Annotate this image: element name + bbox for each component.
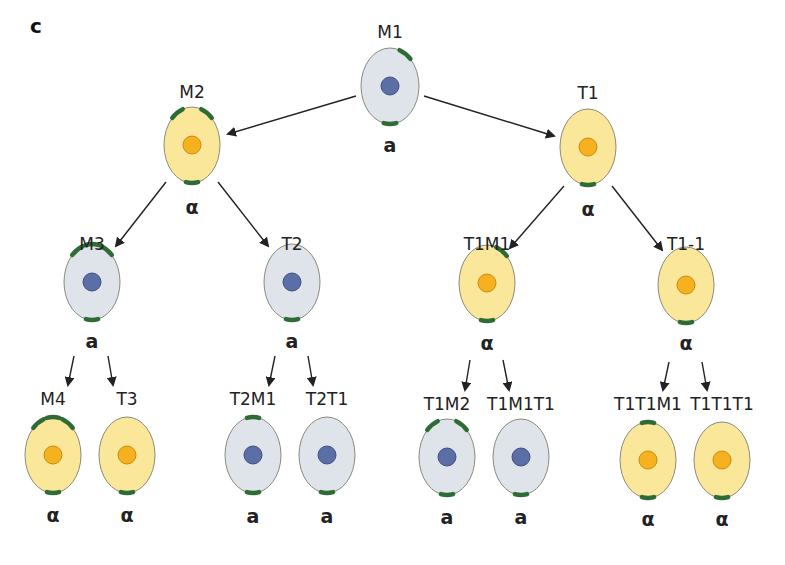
mating-type-label: a — [441, 506, 454, 528]
bud-scar-mark-bottom — [642, 497, 654, 498]
bud-scar-mark-bottom — [321, 492, 333, 493]
nucleus-icon — [579, 138, 597, 156]
cell-t1m1t1: T1M1T1a — [486, 394, 555, 528]
arrow-t2-to-t2m1 — [269, 356, 275, 385]
nucleus-icon — [381, 77, 399, 95]
cell-label: T1T1M1 — [613, 394, 682, 414]
nucleus-icon — [44, 446, 62, 464]
bud-scar-mark-bottom — [481, 320, 493, 321]
bud-scar-mark-bottom — [441, 494, 453, 495]
arrow-t1-1-to-t1t1m1 — [663, 362, 669, 390]
mating-type-label: α — [46, 504, 59, 526]
mating-type-label: α — [715, 508, 728, 530]
cell-t1m1: T1M1α — [459, 234, 515, 354]
mating-type-label: α — [185, 196, 198, 218]
cell-label: T1-1 — [666, 234, 705, 254]
arrow-t1m1-to-t1m2 — [465, 360, 470, 390]
panel-label: c — [30, 14, 42, 38]
mating-type-label: a — [286, 330, 299, 352]
arrow-t2-to-t2t1 — [308, 356, 313, 385]
cell-m1: M1a — [361, 22, 419, 156]
bud-scar-mark-bottom — [716, 497, 728, 498]
bud-scar-mark-bottom — [247, 492, 259, 493]
nucleus-icon — [244, 446, 262, 464]
arrow-m3-to-m4 — [68, 356, 74, 385]
bud-scar-mark-top — [47, 417, 59, 418]
cell-m4: M4α — [25, 389, 81, 526]
bud-scar-mark-bottom — [47, 492, 59, 493]
bud-scar-mark-bottom — [680, 322, 692, 323]
cell-t1m2: T1M2a — [419, 394, 475, 528]
arrow-m2-to-t2 — [218, 182, 268, 246]
mating-type-label: α — [641, 508, 654, 530]
cell-label: T1T1T1 — [689, 394, 754, 414]
mating-type-label: α — [480, 332, 493, 354]
arrow-t1m1-to-t1m1t1 — [503, 360, 509, 390]
mating-type-label: α — [120, 504, 133, 526]
cell-t2m1: T2M1a — [225, 389, 281, 527]
nucleus-icon — [318, 446, 336, 464]
cell-label: M2 — [179, 82, 204, 102]
bud-scar-mark-bottom — [186, 182, 198, 183]
bud-scar-mark-bottom — [86, 319, 98, 320]
cell-label: T2T1 — [305, 389, 348, 409]
mating-type-label: a — [321, 505, 334, 527]
mating-type-label: α — [679, 332, 692, 354]
arrow-t1-to-t1-1 — [612, 186, 662, 250]
cell-label: T1 — [576, 83, 598, 103]
arrow-m3-to-t3 — [108, 356, 113, 385]
bud-scar-mark-top — [247, 417, 259, 418]
nucleus-icon — [83, 273, 101, 291]
nucleus-icon — [512, 448, 530, 466]
bud-scar-mark-bottom — [384, 123, 397, 124]
cell-m2: M2α — [164, 82, 220, 218]
mating-type-label: a — [247, 505, 260, 527]
bud-scar-mark-bottom — [121, 492, 133, 493]
arrow-m1-to-t1 — [424, 96, 554, 136]
cell-label: T3 — [115, 389, 137, 409]
bud-scar-mark-bottom — [515, 494, 527, 495]
arrow-m1-to-m2 — [228, 96, 356, 134]
cell-t2t1: T2T1a — [299, 389, 355, 527]
mating-type-label: a — [384, 134, 397, 156]
cell-t1t1m1: T1T1M1α — [613, 394, 682, 530]
bud-scar-mark-bottom — [582, 184, 594, 185]
cells: M1aM2αT1αM3aT2aT1M1αT1-1αM4αT3αT2M1aT2T1… — [25, 22, 754, 530]
cell-label: T1M2 — [423, 394, 471, 414]
cell-label: M3 — [79, 234, 104, 254]
bud-scar-mark-bottom — [286, 319, 298, 320]
nucleus-icon — [283, 273, 301, 291]
arrow-t1-to-t1m1 — [510, 186, 564, 248]
nucleus-icon — [677, 276, 695, 294]
cell-t3: T3α — [99, 389, 155, 526]
cell-label: T1M1T1 — [486, 394, 555, 414]
mating-type-label: α — [581, 198, 594, 220]
nucleus-icon — [478, 274, 496, 292]
cell-label: T1M1 — [463, 234, 511, 254]
nucleus-icon — [118, 446, 136, 464]
bud-scar-mark-top — [642, 422, 654, 423]
cell-m3: M3a — [64, 234, 120, 352]
cell-t1-1: T1-1α — [658, 234, 714, 354]
nucleus-icon — [183, 136, 201, 154]
cell-label: M4 — [40, 389, 65, 409]
cell-t2: T2a — [264, 234, 320, 352]
cell-label: T2M1 — [229, 389, 277, 409]
arrow-m2-to-m3 — [116, 182, 166, 246]
cell-t1: T1α — [560, 83, 616, 220]
mating-type-label: a — [86, 330, 99, 352]
nucleus-icon — [438, 448, 456, 466]
mating-type-label: a — [515, 506, 528, 528]
cell-label: T2 — [280, 234, 302, 254]
nucleus-icon — [639, 451, 657, 469]
cell-label: M1 — [377, 22, 402, 42]
cell-t1t1t1: T1T1T1α — [689, 394, 754, 530]
nucleus-icon — [713, 451, 731, 469]
arrow-t1-1-to-t1t1t1 — [702, 362, 707, 390]
cell-lineage-diagram: c M1aM2αT1αM3aT2aT1M1αT1-1αM4αT3αT2M1aT2… — [0, 0, 785, 565]
